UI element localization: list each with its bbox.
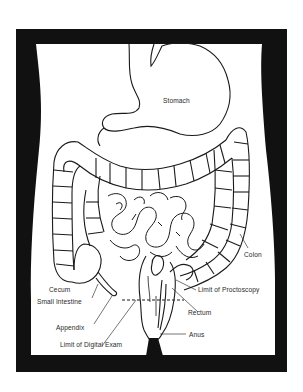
label-limit-proctoscopy: Limit of Proctoscopy [198, 286, 260, 294]
label-appendix: Appendix [56, 324, 85, 332]
anus [146, 338, 163, 356]
label-colon: Colon [244, 251, 262, 258]
anatomy-diagram: Stomach Colon Cecum Small Intestine Limi… [0, 0, 303, 392]
colon-inner-left [64, 161, 104, 246]
torso-frame [16, 29, 287, 372]
label-rectum: Rectum [188, 309, 212, 316]
label-stomach: Stomach [163, 97, 190, 104]
label-cecum: Cecum [49, 286, 71, 293]
transverse-colon [78, 140, 232, 190]
labels: Stomach Colon Cecum Small Intestine Limi… [37, 97, 262, 349]
label-anus: Anus [189, 331, 205, 338]
small-intestine [108, 193, 204, 261]
label-limit-digital-exam: Limit of Digital Exam [60, 341, 123, 349]
label-small-intestine: Small Intestine [37, 298, 82, 305]
stomach [98, 43, 230, 146]
rectum [139, 255, 193, 340]
